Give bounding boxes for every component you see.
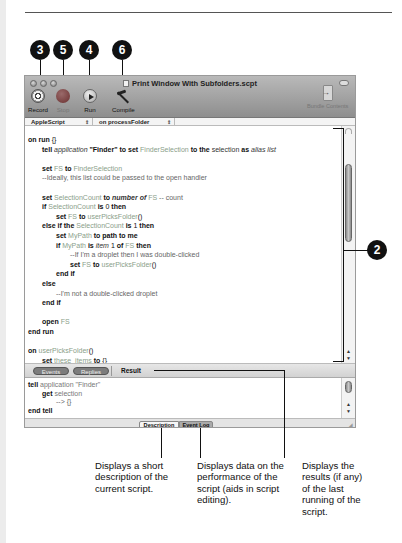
code-line: on run {} xyxy=(28,135,343,145)
handler-popup-value: on processFolder xyxy=(99,119,149,125)
caption-line: description of the xyxy=(95,471,168,482)
callout-record: 3 xyxy=(30,40,50,60)
caption-line: running of the xyxy=(302,494,362,505)
code-line: open FS xyxy=(28,317,343,327)
description-button[interactable]: Description xyxy=(139,421,179,428)
result-vertical-scrollbar[interactable]: ▲ ▼ xyxy=(341,378,355,418)
code-line xyxy=(28,183,343,193)
caption-line: current script. xyxy=(95,483,168,494)
code-line: set MyPath to path to me xyxy=(28,231,343,241)
bundle-icon xyxy=(323,85,333,101)
window-toolbar: Print Window With Subfolders.scpt Record… xyxy=(25,76,355,118)
bottom-bar: Description Event Log ◢ xyxy=(25,418,355,428)
tab-result[interactable]: Result xyxy=(121,367,141,375)
code-line: else if the SelectionCount is 1 then xyxy=(28,221,343,231)
callout-line-2 xyxy=(343,250,368,251)
code-line: set FS to FinderSelection xyxy=(28,164,343,174)
tab-separator xyxy=(111,366,112,376)
callout-bracket-vertical xyxy=(343,128,344,362)
window-title-text: Print Window With Subfolders.scpt xyxy=(132,79,257,88)
code-line: end if xyxy=(28,269,343,279)
page-margin-strip xyxy=(0,0,6,543)
code-line: if MyPath is item 1 of FS then xyxy=(28,241,343,251)
bundle-contents-label: Bundle Contents xyxy=(307,103,348,109)
caption-line: Displays a short xyxy=(95,460,168,471)
caption-line: script. xyxy=(302,506,362,517)
callout-compile: 6 xyxy=(112,40,132,60)
tab-events[interactable]: Events xyxy=(33,367,69,375)
stop-button[interactable]: Stop xyxy=(56,89,70,113)
result-line: get selection xyxy=(28,390,343,399)
result-line: end tell xyxy=(28,407,343,416)
stop-label: Stop xyxy=(56,106,70,113)
run-label: Run xyxy=(83,106,97,113)
callout-script-pane: 2 xyxy=(367,240,387,260)
code-line: end run xyxy=(28,327,343,337)
handler-popup[interactable]: on processFolder ⇕ xyxy=(93,118,175,126)
document-icon xyxy=(123,80,129,87)
code-line: set FS to userPicksFolder() xyxy=(28,260,343,270)
language-popup-value: AppleScript xyxy=(31,119,65,125)
compile-label: Compile xyxy=(112,106,135,113)
caption-line: of the last xyxy=(302,483,362,494)
result-callout-line-v xyxy=(284,370,285,458)
script-editor-window: Print Window With Subfolders.scpt Record… xyxy=(24,75,356,428)
caption-line: Displays data on the xyxy=(197,460,284,471)
navigation-bar: AppleScript ⇕ on processFolder ⇕ xyxy=(25,118,355,126)
window-title: Print Window With Subfolders.scpt xyxy=(25,79,355,88)
caption-event-log: Displays data on the performance of the … xyxy=(197,460,284,506)
caption-line: Displays the xyxy=(302,460,362,471)
description-callout-line xyxy=(161,428,162,458)
callout-stop: 5 xyxy=(53,40,73,60)
code-comment: --I'm not a double-clicked droplet xyxy=(28,289,343,299)
record-label: Record xyxy=(28,106,48,113)
code-line: set SelectionCount to number of FS -- co… xyxy=(28,193,343,203)
caption-result: Displays the results (if any) of the las… xyxy=(302,460,362,517)
scroll-down-arrow-icon[interactable]: ▼ xyxy=(346,355,351,361)
result-line: tell application "Finder" xyxy=(28,381,343,390)
result-callout-line-h xyxy=(154,370,284,371)
caption-line: script (aids in script xyxy=(197,483,284,494)
script-editor-pane[interactable]: on run {} tell application "Finder" to s… xyxy=(25,126,343,363)
caption-line: editing). xyxy=(197,494,284,505)
scroll-thumb[interactable] xyxy=(345,164,352,242)
record-icon xyxy=(31,89,45,103)
code-comment: --If I'm a droplet then I was double-cli… xyxy=(28,250,343,260)
result-pane[interactable]: tell application "Finder" get selection … xyxy=(25,378,343,418)
language-popup[interactable]: AppleScript ⇕ xyxy=(25,118,93,126)
code-line: if SelectionCount is 0 then xyxy=(28,202,343,212)
popup-arrows-icon: ⇕ xyxy=(85,118,89,126)
scroll-top-cap xyxy=(345,128,352,134)
code-line: on userPicksFolder() xyxy=(28,346,343,356)
hammer-icon xyxy=(116,89,130,103)
popup-arrows-icon: ⇕ xyxy=(167,118,171,126)
scroll-thumb[interactable] xyxy=(345,381,352,393)
scroll-up-arrow-icon[interactable]: ▲ xyxy=(346,348,351,354)
callout-run: 4 xyxy=(79,40,99,60)
tab-replies[interactable]: Replies xyxy=(73,367,109,375)
resize-grip-icon[interactable]: ◢ xyxy=(348,421,353,428)
caption-description: Displays a short description of the curr… xyxy=(95,460,168,494)
event-log-button[interactable]: Event Log xyxy=(179,421,213,428)
run-button[interactable]: Run xyxy=(83,89,97,113)
bundle-contents-button[interactable]: Bundle Contents xyxy=(307,85,348,109)
event-log-callout-line xyxy=(200,428,201,458)
code-comment: --Ideally, this list could be passed to … xyxy=(28,173,343,183)
caption-line: performance of the xyxy=(197,471,284,482)
code-line: else xyxy=(28,279,343,289)
record-button[interactable]: Record xyxy=(28,89,48,113)
result-line: --> {} xyxy=(28,398,343,407)
code-line xyxy=(28,308,343,318)
code-line xyxy=(28,336,343,346)
caption-line: results (if any) xyxy=(302,471,362,482)
code-line: set FS to userPicksFolder() xyxy=(28,212,343,222)
code-line: end if xyxy=(28,298,343,308)
code-line: tell application "Finder" to set FinderS… xyxy=(28,145,343,155)
stop-icon xyxy=(56,89,70,103)
code-line xyxy=(28,154,343,164)
callout-bracket-bottom xyxy=(333,361,344,362)
scroll-down-arrow-icon[interactable]: ▼ xyxy=(346,408,351,414)
scroll-up-arrow-icon[interactable]: ▲ xyxy=(346,401,351,407)
top-rule xyxy=(25,12,392,13)
compile-button[interactable]: Compile xyxy=(112,89,135,113)
